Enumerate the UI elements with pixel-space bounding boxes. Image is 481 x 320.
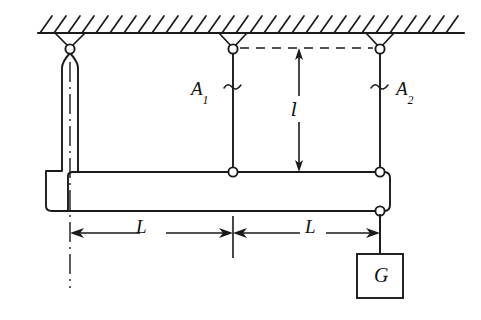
diagram-canvas: A1 A2 l L L G (0, 0, 481, 320)
beam-horizontal-member (68, 172, 390, 211)
pin-ceiling-left (65, 44, 74, 53)
pin-ceiling-mid (228, 44, 237, 53)
label-rod-A1-subscript: 1 (203, 93, 209, 107)
dimension-L-group (70, 216, 380, 258)
label-rod-length: l (291, 98, 297, 120)
label-rod-A2-letter: A (396, 78, 408, 99)
ceiling-hatching (40, 16, 458, 33)
pin-joints (65, 44, 384, 215)
label-span-left: L (136, 216, 147, 238)
label-rod-A2: A2 (396, 78, 414, 104)
pin-beam-mid (228, 167, 237, 176)
label-rod-A2-subscript: 2 (408, 93, 414, 107)
label-load-G: G (374, 264, 388, 287)
pin-beam-right (375, 167, 384, 176)
pin-ceiling-right (375, 44, 384, 53)
engineering-diagram-svg (0, 0, 481, 320)
ceiling-support (38, 16, 464, 33)
beam-vertical-member (46, 53, 78, 211)
label-rod-A1-letter: A (191, 78, 203, 99)
label-span-right: L (305, 216, 316, 238)
label-rod-A1: A1 (191, 78, 209, 104)
